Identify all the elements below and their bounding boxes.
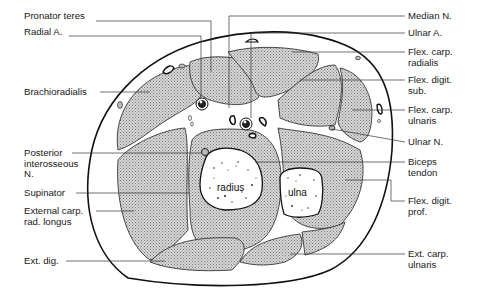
label-ext-carp-ulnaris: Ext. carp. ulnaris bbox=[408, 249, 449, 270]
label-flex-carp-radialis: Flex. carp. radialis bbox=[408, 47, 453, 68]
label-radial-a: Radial A. bbox=[24, 27, 62, 38]
label-ext-dig: Ext. dig. bbox=[24, 256, 59, 267]
label-brachioradialis: Brachioradialis bbox=[24, 87, 87, 98]
label-ulnar-a: Ulnar A. bbox=[408, 28, 442, 39]
label-median-n: Median N. bbox=[408, 11, 452, 22]
bone-label-radius: radius bbox=[217, 182, 244, 193]
label-biceps-tendon: Biceps tendon bbox=[408, 157, 437, 178]
vein-3 bbox=[249, 133, 256, 138]
label-flex-digit-sub: Flex. digit. sub. bbox=[408, 75, 452, 96]
bone-label-ulna: ulna bbox=[288, 187, 307, 198]
vein-1 bbox=[230, 116, 235, 125]
label-flex-digit-prof: Flex. digit. prof. bbox=[408, 196, 452, 217]
label-flex-carp-ulnaris: Flex. carp. ulnaris bbox=[408, 105, 453, 126]
label-posterior-interosseous-n: Posterior interosseous N. bbox=[24, 148, 78, 180]
label-ulnar-n: Ulnar N. bbox=[408, 137, 443, 148]
posterior-interosseous-nerve bbox=[202, 149, 209, 156]
label-external-carp-rad-longus: External carp. rad. longus bbox=[24, 206, 83, 227]
forearm-cross-section-diagram: radius ulna bbox=[0, 0, 480, 294]
bone-radius bbox=[200, 148, 262, 210]
label-supinator: Supinator bbox=[24, 188, 65, 199]
label-pronator-teres: Pronator teres bbox=[24, 11, 85, 22]
